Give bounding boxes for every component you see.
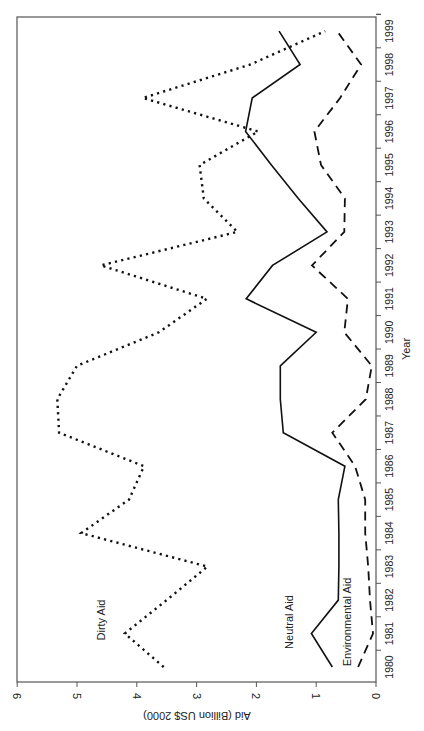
year-tick-label: 1997 bbox=[383, 86, 395, 110]
aid-line-chart: 0123456 19801981198219831984198519861987… bbox=[0, 0, 424, 731]
neutral-aid-line bbox=[246, 31, 345, 667]
year-tick-label: 1986 bbox=[383, 454, 395, 478]
dirty-aid-label: Dirty Aid bbox=[95, 600, 107, 641]
year-tick-label: 1982 bbox=[383, 588, 395, 612]
environmental-aid-line bbox=[312, 31, 373, 667]
year-tick-label: 1989 bbox=[383, 354, 395, 378]
year-tick-label: 1983 bbox=[383, 555, 395, 579]
year-tick-label: 1984 bbox=[383, 521, 395, 545]
value-axis: 0123456 bbox=[11, 682, 382, 699]
year-tick-label: 1998 bbox=[383, 53, 395, 77]
value-axis-title: Aid (Billion US$ 2000) bbox=[143, 710, 251, 722]
neutral-aid-label: Neutral Aid bbox=[283, 595, 295, 649]
year-tick-label: 1988 bbox=[383, 387, 395, 411]
value-tick-label: 1 bbox=[310, 693, 322, 699]
year-tick-label: 1991 bbox=[383, 287, 395, 311]
year-axis-title: Year bbox=[400, 338, 412, 361]
series-labels: Dirty AidNeutral AidEnvironmental Aid bbox=[95, 578, 353, 667]
year-tick-label: 1999 bbox=[383, 19, 395, 43]
dirty-aid-line bbox=[57, 31, 325, 667]
year-tick-label: 1994 bbox=[383, 187, 395, 211]
year-axis: 1980198119821983198419851986198719881989… bbox=[376, 14, 395, 678]
value-tick-label: 5 bbox=[71, 693, 83, 699]
year-tick-label: 1995 bbox=[383, 153, 395, 177]
series-lines bbox=[57, 31, 373, 667]
year-tick-label: 1987 bbox=[383, 421, 395, 445]
value-tick-label: 4 bbox=[131, 693, 143, 699]
year-tick-label: 1990 bbox=[383, 320, 395, 344]
year-tick-label: 1985 bbox=[383, 488, 395, 512]
environmental-aid-label: Environmental Aid bbox=[341, 578, 353, 667]
year-tick-label: 1992 bbox=[383, 254, 395, 278]
value-tick-label: 2 bbox=[250, 693, 262, 699]
year-tick-label: 1980 bbox=[383, 655, 395, 679]
year-tick-label: 1996 bbox=[383, 120, 395, 144]
plot-frame bbox=[17, 17, 376, 682]
value-tick-label: 6 bbox=[11, 693, 23, 699]
value-tick-label: 3 bbox=[191, 693, 203, 699]
value-tick-label: 0 bbox=[370, 693, 382, 699]
year-tick-label: 1981 bbox=[383, 622, 395, 646]
year-tick-label: 1993 bbox=[383, 220, 395, 244]
